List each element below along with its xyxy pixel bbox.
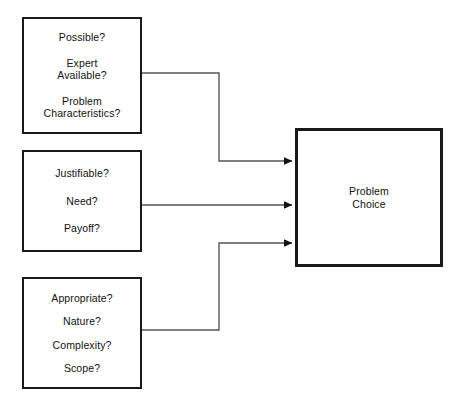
node-line: Problem Choice — [349, 185, 389, 210]
node-line: Justifiable? — [55, 167, 109, 180]
node-line: Appropriate? — [51, 292, 112, 305]
node-line: Problem Characteristics? — [44, 95, 121, 120]
node-line: Expert Available? — [57, 57, 106, 82]
connector-possible-to-outcome — [142, 73, 292, 161]
node-appropriate-criteria[interactable]: Appropriate? Nature? Complexity? Scope? — [22, 277, 142, 389]
node-line: Complexity? — [53, 339, 112, 352]
connector-appropriate-to-outcome — [142, 243, 292, 330]
flow-diagram: Possible? Expert Available? Problem Char… — [0, 0, 456, 411]
node-line: Nature? — [63, 315, 101, 328]
node-line: Payoff? — [64, 222, 100, 235]
node-line: Scope? — [64, 362, 100, 375]
node-justifiable-criteria[interactable]: Justifiable? Need? Payoff? — [22, 150, 142, 252]
node-line: Possible? — [59, 31, 105, 44]
node-line: Need? — [66, 195, 97, 208]
node-possible-criteria[interactable]: Possible? Expert Available? Problem Char… — [22, 17, 142, 134]
node-problem-choice[interactable]: Problem Choice — [295, 128, 443, 267]
